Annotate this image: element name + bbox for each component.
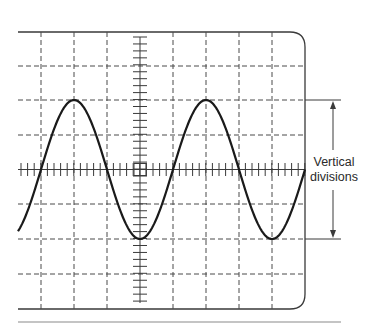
vertical-divisions-label: Vertical divisions: [306, 155, 362, 185]
vertical-grid-lines: [41, 32, 272, 309]
label-line-1: Vertical: [306, 155, 362, 170]
arrow-down-icon: [330, 230, 336, 238]
label-line-2: divisions: [306, 170, 362, 185]
center-horizontal-axis: [18, 163, 305, 176]
arrow-up-icon: [330, 101, 336, 109]
